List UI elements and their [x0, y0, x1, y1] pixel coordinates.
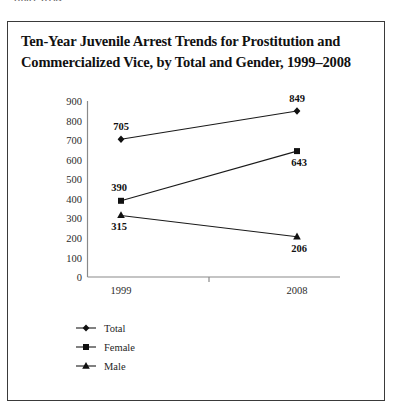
value-label-male-1999: 315 — [111, 221, 127, 232]
y-tick-label: 200 — [66, 233, 82, 244]
x-tick-label: 2008 — [287, 285, 308, 296]
value-label-total-1999: 705 — [113, 121, 129, 132]
y-tick-label: 500 — [66, 174, 82, 185]
series-female — [118, 148, 300, 204]
y-tick-label: 900 — [66, 96, 82, 107]
series-total-marker-1999 — [118, 136, 125, 143]
legend-label-total: Total — [104, 323, 126, 334]
series-male-marker-1999 — [117, 211, 125, 218]
y-axis-tick-labels: 900 800 700 600 500 400 300 200 100 0 — [66, 96, 82, 283]
legend-diamond-icon — [83, 324, 90, 331]
value-label-male-2008: 206 — [291, 243, 307, 254]
legend-label-female: Female — [104, 342, 135, 353]
chart-legend: Total Female Male — [76, 323, 135, 372]
y-tick-label: 100 — [66, 253, 82, 264]
legend-item-male[interactable]: Male — [76, 361, 126, 372]
y-tick-label: 600 — [66, 155, 82, 166]
series-total — [118, 107, 301, 143]
y-tick-label: 700 — [66, 135, 82, 146]
y-tick-label: 0 — [77, 272, 82, 283]
series-total-line — [121, 111, 297, 139]
series-female-marker-1999 — [118, 198, 124, 204]
series-male-line — [121, 216, 297, 237]
data-value-labels: 705 849 390 643 315 206 — [111, 93, 307, 254]
y-tick-label: 300 — [66, 213, 82, 224]
legend-label-male: Male — [104, 361, 126, 372]
x-axis-tick-labels: 1999 2008 — [111, 285, 308, 296]
value-label-female-1999: 390 — [111, 182, 127, 193]
series-total-marker-2008 — [294, 107, 301, 114]
y-tick-label: 800 — [66, 116, 82, 127]
legend-item-female[interactable]: Female — [76, 342, 135, 353]
x-tick-label: 1999 — [111, 285, 132, 296]
y-tick-label: 400 — [66, 194, 82, 205]
legend-triangle-icon — [82, 362, 90, 369]
value-label-female-2008: 643 — [291, 157, 307, 168]
legend-square-icon — [83, 344, 89, 350]
legend-item-total[interactable]: Total — [76, 323, 126, 334]
value-label-total-2008: 849 — [289, 93, 305, 104]
series-female-marker-2008 — [294, 148, 300, 154]
series-male — [117, 211, 301, 239]
series-female-line — [121, 151, 297, 201]
